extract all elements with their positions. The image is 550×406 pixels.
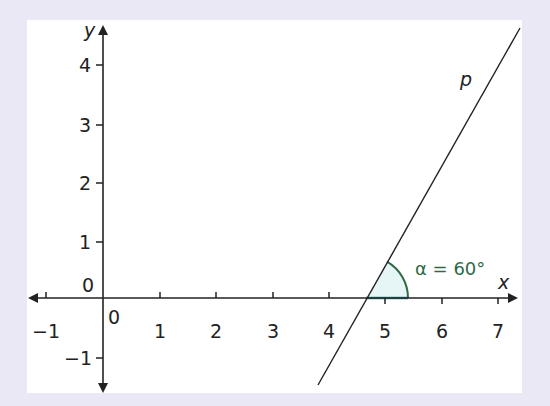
x-tick-label: 6 xyxy=(436,320,448,342)
origin-label: 0 xyxy=(108,306,120,328)
line-p-label: p xyxy=(459,68,472,90)
y-tick-label: 4 xyxy=(79,54,91,76)
y-ticks xyxy=(96,65,103,358)
y-tick-label: −1 xyxy=(64,347,92,369)
line-p xyxy=(318,28,520,385)
angle-sector xyxy=(366,262,408,298)
coordinate-plane: −1 1 2 3 4 5 6 7 0 4 3 2 1 −1 0 y x p α … xyxy=(0,0,550,406)
x-tick-label: 1 xyxy=(154,320,166,342)
x-tick-label: −1 xyxy=(32,320,60,342)
x-tick-label: 7 xyxy=(492,320,504,342)
y-tick-label: 3 xyxy=(79,114,91,136)
diagram-frame: −1 1 2 3 4 5 6 7 0 4 3 2 1 −1 0 y x p α … xyxy=(0,0,550,406)
x-tick-label: 5 xyxy=(379,320,391,342)
angle-label: α = 60° xyxy=(415,258,485,279)
x-tick-label: 4 xyxy=(323,320,335,342)
y-tick-label: 1 xyxy=(79,231,91,253)
x-tick-label: 2 xyxy=(210,320,222,342)
y-axis-label: y xyxy=(83,19,96,41)
y-zero-label: 0 xyxy=(82,274,94,296)
x-tick-label: 3 xyxy=(267,320,279,342)
y-tick-label: 2 xyxy=(79,172,91,194)
x-axis-label: x xyxy=(497,271,510,293)
